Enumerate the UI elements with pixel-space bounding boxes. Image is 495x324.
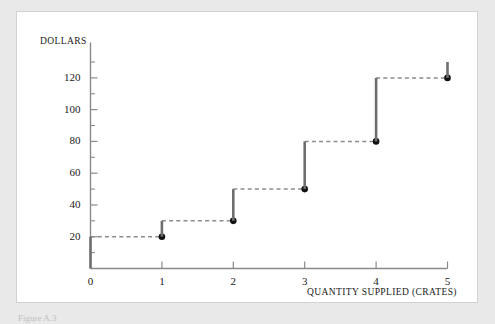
x-tick-label: 5: [428, 275, 468, 287]
x-tick-label: 0: [71, 275, 111, 287]
axes-layer: [91, 43, 448, 269]
x-tick-label: 2: [213, 275, 253, 287]
figure-container: Dollars Quantity Supplied (Crates) Figur…: [0, 0, 495, 324]
x-tick-label: 4: [356, 275, 396, 287]
supply-step-series: [91, 62, 451, 269]
x-tick-label: 1: [142, 275, 182, 287]
x-tick-label: 3: [285, 275, 325, 287]
